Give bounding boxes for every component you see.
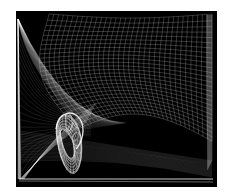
wireframe-artwork bbox=[16, 11, 217, 187]
mesh-surface-graphic bbox=[16, 11, 217, 187]
